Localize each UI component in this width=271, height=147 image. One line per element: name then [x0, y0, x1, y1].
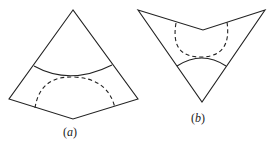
panel-b-dashed-arc	[175, 22, 228, 57]
panel-b-letter: b	[195, 111, 201, 125]
panel-a-solid-arc	[34, 65, 112, 76]
panel-a-label: (a)	[63, 125, 77, 140]
panel-b-outline	[138, 10, 265, 102]
panel-b-solid-arc	[177, 58, 226, 66]
diagram-svg	[0, 0, 271, 147]
panel-a-shape	[9, 10, 138, 119]
panel-b-shape	[138, 10, 265, 102]
panel-a-letter: a	[67, 125, 73, 139]
panel-a-outline	[9, 10, 138, 119]
panel-b-label: (b)	[191, 111, 205, 126]
diagram-canvas: (a) (b)	[0, 0, 271, 147]
panel-a-dashed-arc	[35, 77, 115, 108]
